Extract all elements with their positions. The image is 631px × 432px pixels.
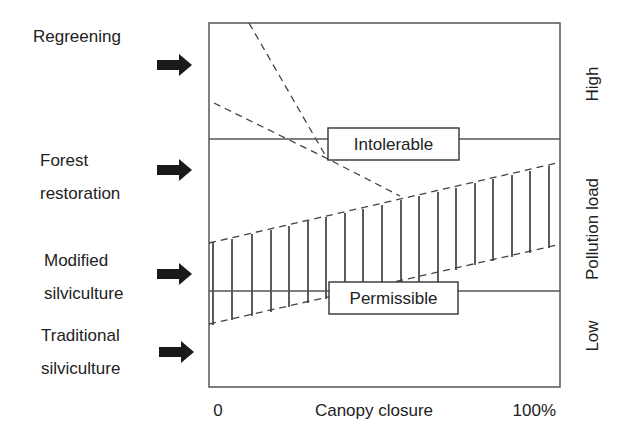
permissible-label: Permissible: [350, 289, 438, 308]
y-axis-low-label: Low: [583, 320, 602, 352]
y-axis-label: Pollution load: [583, 178, 602, 280]
x-axis-min-label: 0: [213, 401, 222, 420]
x-axis-max-label: 100%: [513, 401, 556, 420]
y-axis-high-label: High: [583, 67, 602, 102]
pollution-canopy-diagram: Intolerable Permissible 0 Canopy closure…: [0, 0, 631, 432]
band-upper-edge: [209, 163, 557, 243]
x-axis-label: Canopy closure: [315, 401, 433, 420]
plot-frame: [209, 23, 560, 387]
intolerable-label: Intolerable: [354, 135, 433, 154]
